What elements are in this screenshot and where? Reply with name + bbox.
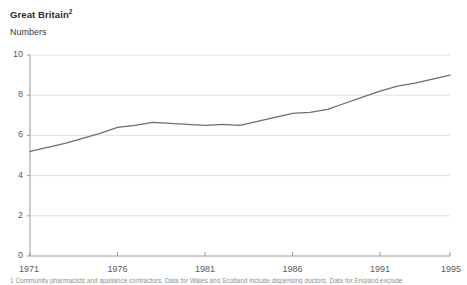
data-series-line <box>30 75 450 151</box>
y-tick-label-4: 4 <box>1 170 23 180</box>
x-tick-label-1971: 1971 <box>9 264 49 274</box>
y-tick-label-6: 6 <box>1 129 23 139</box>
x-tick-label-1976: 1976 <box>98 264 138 274</box>
x-tick-label-1991: 1991 <box>360 264 400 274</box>
chart-footnote: 1 Community pharmacists and appliance co… <box>10 277 467 284</box>
x-tick-label-1981: 1981 <box>185 264 225 274</box>
axes-group <box>30 55 450 256</box>
y-tick-label-8: 8 <box>1 89 23 99</box>
y-tick-label-2: 2 <box>1 210 23 220</box>
x-tick-label-1995: 1995 <box>431 264 467 274</box>
chart-plot-area <box>0 0 467 285</box>
y-tick-label-10: 10 <box>1 49 23 59</box>
y-tick-label-0: 0 <box>1 250 23 260</box>
x-tick-label-1986: 1986 <box>273 264 313 274</box>
tick-marks-group <box>27 55 450 256</box>
chart-figure: Great Britain2 Numbers 0246810 197119761… <box>0 0 467 285</box>
